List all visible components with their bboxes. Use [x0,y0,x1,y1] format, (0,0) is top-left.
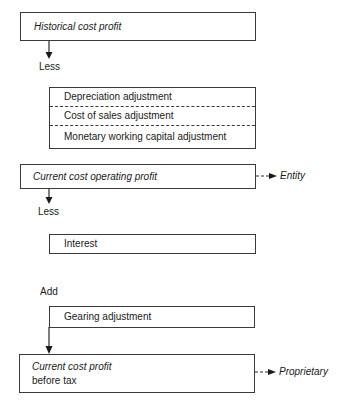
depreciation-adjustment-label: Depreciation adjustment [64,91,172,103]
down-arrow-icon [46,197,53,204]
current-cost-profit-label: Current cost profit [32,361,111,373]
current-cost-profit-before-tax-box: Current cost profit before tax [19,354,255,393]
proprietary-label: Proprietary [279,366,328,378]
entity-label: Entity [280,170,305,182]
gearing-adjustment-box: Gearing adjustment [49,306,255,328]
add-label: Add [40,286,58,298]
adjustments-box: Depreciation adjustment Cost of sales ad… [49,87,256,149]
down-arrow-icon [46,52,53,59]
current-cost-operating-profit-box: Current cost operating profit [20,164,256,189]
monetary-working-capital-adjustment-label: Monetary working capital adjustment [64,131,226,143]
dashed-divider [50,106,255,107]
current-cost-operating-profit-label: Current cost operating profit [33,171,157,183]
interest-box: Interest [49,234,256,254]
down-arrow-icon [46,346,53,354]
less-label: Less [38,206,59,218]
right-arrow-icon [269,173,277,179]
dashed-divider [50,125,255,126]
historical-cost-profit-label: Historical cost profit [34,21,121,33]
right-arrow-icon [268,369,276,375]
cost-of-sales-adjustment-label: Cost of sales adjustment [64,110,174,122]
historical-cost-profit-box: Historical cost profit [20,12,256,41]
less-label: Less [39,61,60,73]
before-tax-label: before tax [32,375,76,387]
interest-label: Interest [64,238,97,250]
gearing-adjustment-label: Gearing adjustment [64,311,151,323]
